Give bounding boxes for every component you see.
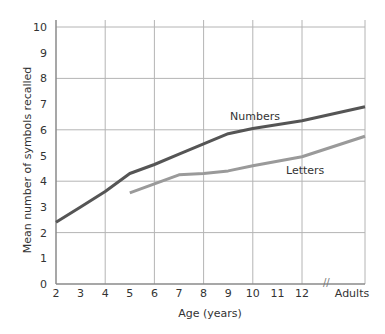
series-label-letters: Letters — [286, 164, 325, 177]
x-tick-labels: 23456789101112Adults — [53, 287, 370, 300]
y-tick-label: 0 — [40, 278, 47, 291]
series-line-letters — [130, 136, 365, 193]
x-tick-label: 4 — [102, 287, 109, 300]
x-tick-label: 11 — [270, 287, 284, 300]
x-tick-label: 12 — [295, 287, 309, 300]
x-axis-title: Age (years) — [178, 307, 242, 320]
y-tick-label: 3 — [40, 201, 47, 214]
x-tick-label: 7 — [176, 287, 183, 300]
y-tick-label: 10 — [33, 21, 47, 34]
axis-break-mark: // — [323, 277, 330, 288]
y-tick-label: 2 — [40, 227, 47, 240]
y-tick-label: 4 — [40, 175, 47, 188]
y-tick-label: 1 — [40, 252, 47, 265]
x-tick-label: Adults — [335, 287, 370, 300]
series-label-numbers: Numbers — [230, 110, 280, 123]
y-tick-labels: 012345678910 — [33, 21, 47, 291]
y-tick-label: 8 — [40, 72, 47, 85]
y-tick-label: 6 — [40, 124, 47, 137]
x-tick-label: 5 — [126, 287, 133, 300]
line-chart: 012345678910 23456789101112Adults Number… — [0, 0, 385, 334]
x-tick-label: 6 — [151, 287, 158, 300]
x-tick-label: 10 — [246, 287, 260, 300]
y-tick-label: 7 — [40, 98, 47, 111]
y-tick-label: 9 — [40, 47, 47, 60]
y-tick-label: 5 — [40, 150, 47, 163]
x-tick-label: 2 — [53, 287, 60, 300]
x-tick-label: 3 — [77, 287, 84, 300]
x-tick-label: 9 — [225, 287, 232, 300]
y-axis-title: Mean number of symbols recalled — [21, 67, 34, 254]
x-tick-label: 8 — [200, 287, 207, 300]
